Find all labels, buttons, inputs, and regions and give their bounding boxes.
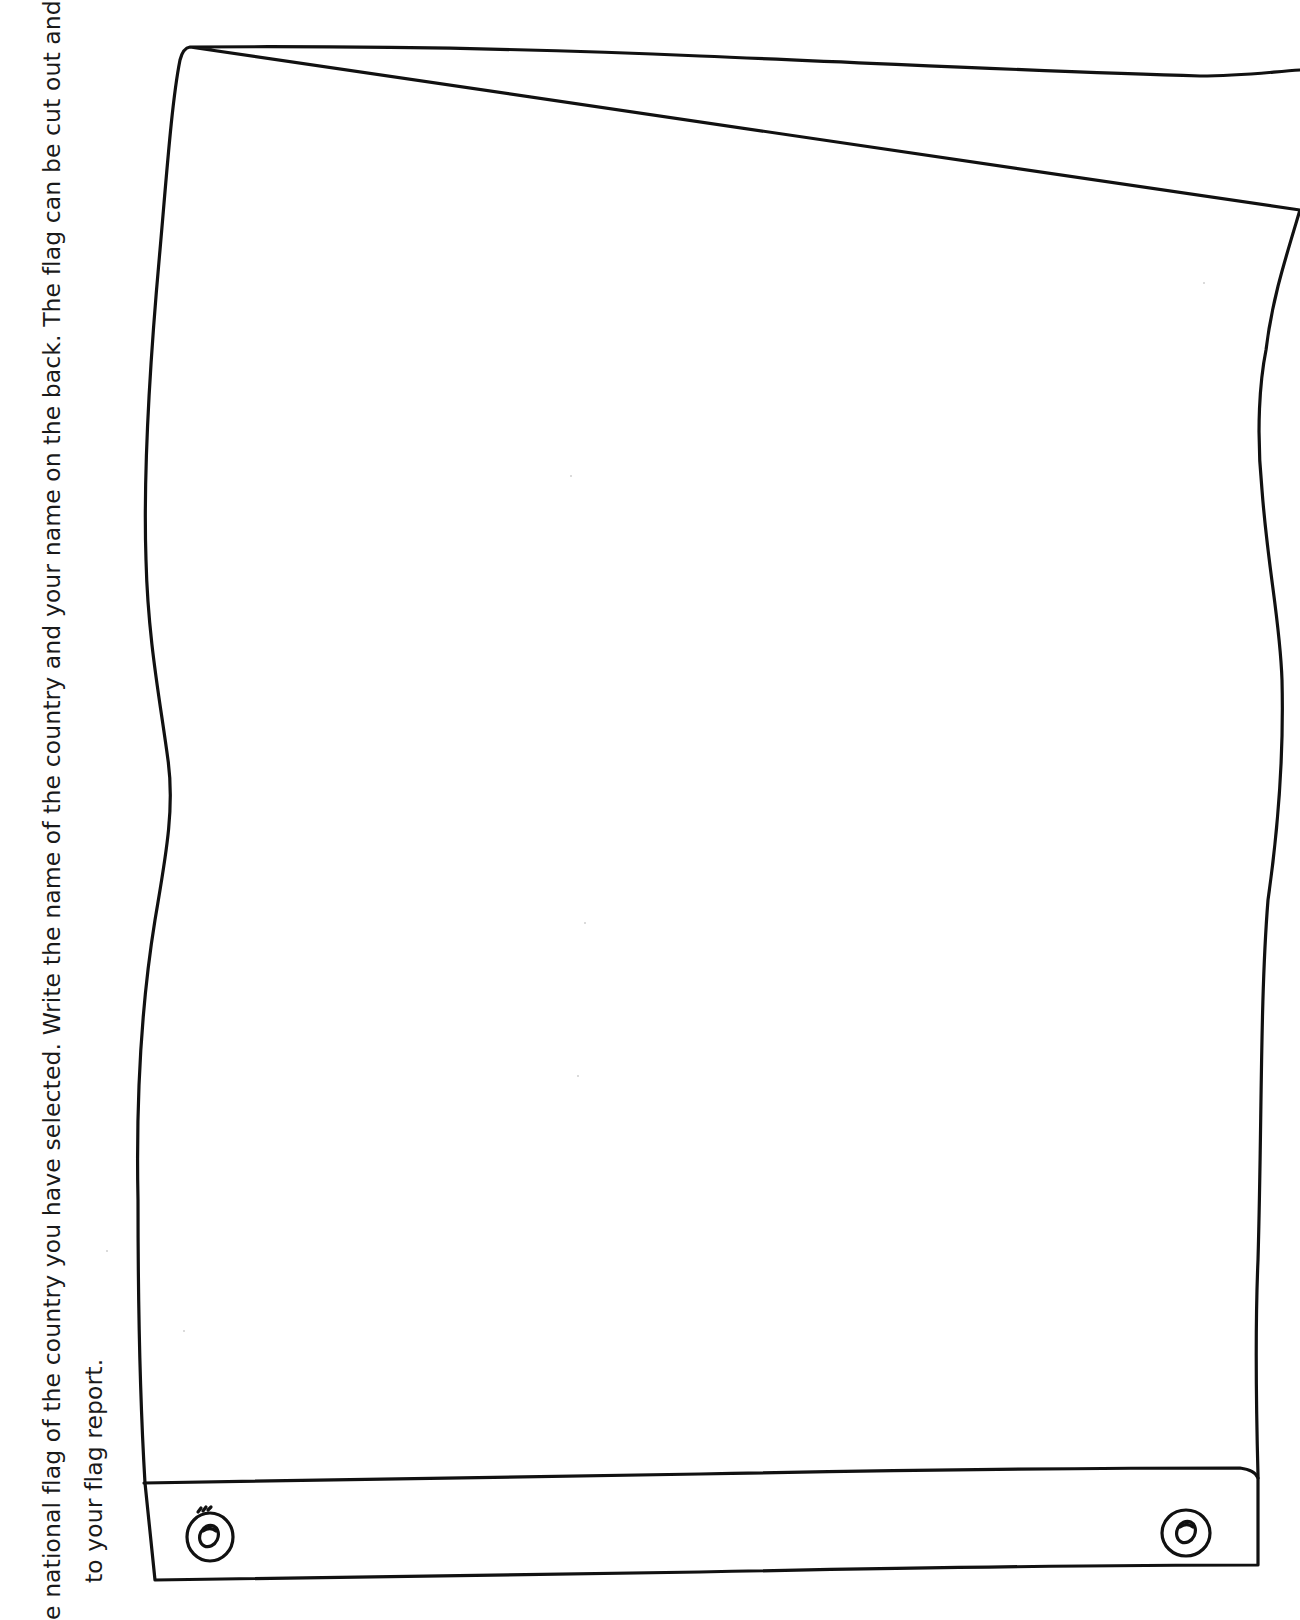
flag-hem-line [144, 1468, 1258, 1483]
scan-speck [183, 1330, 185, 1332]
scan-speck [570, 475, 572, 477]
scan-speck [577, 1075, 579, 1077]
scan-speck [1203, 282, 1205, 284]
scan-speck [106, 1250, 108, 1252]
grommet-right-icon [1162, 1510, 1210, 1556]
grommet-left-icon [187, 1507, 233, 1561]
scan-speck [584, 922, 586, 924]
flag-body-outline [138, 47, 1300, 1580]
